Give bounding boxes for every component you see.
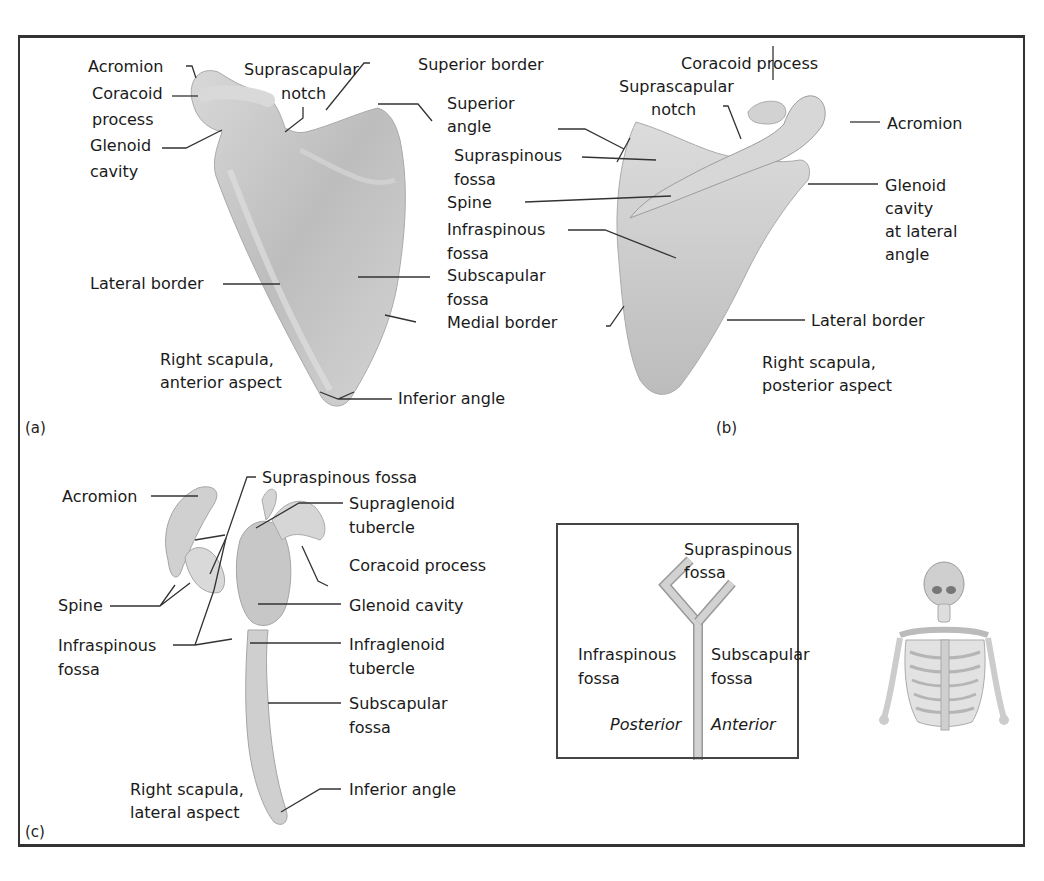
label-a-medial-border: Medial border [447,313,557,333]
label-c-infraglenoid-1: Infraglenoid [349,635,445,655]
label-a-subscapular-2: fossa [447,290,489,310]
label-b-infraspinous-2: fossa [447,244,489,264]
panel-id-a: (a) [25,419,46,437]
label-c-infraspinous-2: fossa [58,660,100,680]
label-c-supraglenoid-1: Supraglenoid [349,494,455,514]
label-b-coracoid: Coracoid process [681,54,818,74]
label-b-glenoid-4: angle [885,245,929,265]
label-b-suprascapular-1: Suprascapular [619,77,734,97]
caption-c-line-2: lateral aspect [130,803,240,823]
label-b-glenoid-2: cavity [885,199,933,219]
inset-posterior: Posterior [610,715,681,735]
label-c-infraspinous-1: Infraspinous [58,636,156,656]
label-c-infraglenoid-2: tubercle [349,659,415,679]
label-b-acromion: Acromion [887,114,962,134]
caption-c-line-1: Right scapula, [130,780,244,800]
label-a-coracoid-2: process [92,110,153,130]
inset-infraspinous-1: Infraspinous [578,645,676,665]
label-a-superior-angle-2: angle [447,117,491,137]
label-b-spine: Spine [447,193,492,213]
label-c-subscapular-2: fossa [349,718,391,738]
label-c-supraglenoid-2: tubercle [349,518,415,538]
label-a-glenoid-1: Glenoid [90,136,151,156]
label-c-inferior-angle: Inferior angle [349,780,456,800]
panel-id-b: (b) [716,419,737,437]
inset-supraspinous-2: fossa [684,563,726,583]
caption-a-line-1: Right scapula, [160,350,274,370]
label-a-superior-border: Superior border [418,55,544,75]
caption-b-line-2: posterior aspect [762,376,892,396]
label-a-suprascapular-1: Suprascapular [244,60,359,80]
label-b-lateral-border: Lateral border [811,311,925,331]
label-c-acromion: Acromion [62,487,137,507]
label-c-spine: Spine [58,596,103,616]
caption-a-line-2: anterior aspect [160,373,282,393]
label-c-supraspinous: Supraspinous fossa [262,468,417,488]
inset-subscapular-2: fossa [711,669,753,689]
label-a-inferior-angle: Inferior angle [398,389,505,409]
label-c-subscapular-1: Subscapular [349,694,448,714]
label-c-coracoid: Coracoid process [349,556,486,576]
label-a-lateral-border: Lateral border [90,274,204,294]
label-a-glenoid-2: cavity [90,162,138,182]
skeleton-thumbnail [879,562,1009,730]
label-c-glenoid: Glenoid cavity [349,596,464,616]
inset-infraspinous-2: fossa [578,669,620,689]
panel-id-c: (c) [25,823,45,841]
inset-anterior: Anterior [711,715,776,735]
label-b-supraspinous-2: fossa [454,170,496,190]
label-b-supraspinous-1: Supraspinous [454,146,562,166]
label-a-subscapular-1: Subscapular [447,266,546,286]
scapula-lateral-illustration [166,487,325,825]
label-a-coracoid-1: Coracoid [92,84,163,104]
scapula-posterior-illustration [617,96,825,395]
inset-supraspinous-1: Supraspinous [684,540,792,560]
label-a-acromion: Acromion [88,57,163,77]
label-b-glenoid-3: at lateral [885,222,957,242]
label-a-superior-angle-1: Superior [447,94,515,114]
label-b-suprascapular-2: notch [651,100,696,120]
label-b-infraspinous-1: Infraspinous [447,220,545,240]
caption-b-line-1: Right scapula, [762,353,876,373]
label-a-suprascapular-2: notch [281,84,326,104]
inset-subscapular-1: Subscapular [711,645,810,665]
label-b-glenoid-1: Glenoid [885,176,946,196]
